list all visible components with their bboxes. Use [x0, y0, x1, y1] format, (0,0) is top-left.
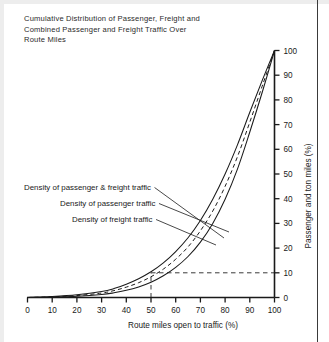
y-tick-label-70: 70 — [284, 121, 294, 130]
y-tick-label-60: 60 — [284, 145, 294, 154]
x-tick-label-30: 30 — [97, 306, 107, 315]
x-tick-label-100: 100 — [268, 306, 282, 315]
y-tick-label-20: 20 — [284, 244, 294, 253]
annotation-freight-text: Density of freight traffic — [72, 215, 153, 224]
series-curve-1 — [28, 51, 275, 298]
chart-plot-area: 0102030405060708090100010203040506070809… — [0, 0, 329, 342]
x-tick-label-20: 20 — [72, 306, 82, 315]
x-tick-label-50: 50 — [146, 306, 156, 315]
y-tick-label-30: 30 — [284, 219, 294, 228]
y-tick-label-40: 40 — [284, 195, 294, 204]
x-tick-label-60: 60 — [171, 306, 181, 315]
x-tick-label-70: 70 — [196, 306, 206, 315]
series-curve-2 — [28, 51, 275, 298]
y-tick-label-0: 0 — [284, 294, 289, 303]
annotation-combined-text: Density of passenger & freight traffic — [24, 183, 151, 192]
chart-page: Cumulative Distribution of Passenger, Fr… — [0, 0, 329, 342]
y-tick-label-50: 50 — [284, 170, 294, 179]
y-tick-label-10: 10 — [284, 269, 294, 278]
x-tick-label-40: 40 — [122, 306, 132, 315]
annotation-combined-leader — [155, 188, 224, 239]
y-tick-label-100: 100 — [284, 47, 298, 56]
annotation-passenger-leader — [159, 204, 229, 233]
x-tick-label-80: 80 — [221, 306, 231, 315]
y-tick-label-90: 90 — [284, 71, 294, 80]
y-tick-label-80: 80 — [284, 96, 294, 105]
x-tick-label-0: 0 — [25, 306, 30, 315]
y-axis-title: Passenger and ton miles (%) — [304, 143, 313, 248]
series-curve-0 — [28, 51, 275, 298]
x-tick-label-10: 10 — [48, 306, 58, 315]
x-tick-label-90: 90 — [245, 306, 255, 315]
annotation-passenger-text: Density of passenger traffic — [60, 199, 156, 208]
x-axis-title: Route miles open to traffic (%) — [128, 321, 238, 330]
